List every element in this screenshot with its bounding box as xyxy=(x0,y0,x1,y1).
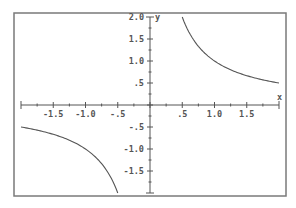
y-tick-label: -1.5 xyxy=(124,166,144,176)
y-tick-label: 1.5 xyxy=(129,34,144,44)
x-tick-label: -.5 xyxy=(110,109,125,119)
x-axis-label: x xyxy=(277,92,282,102)
function-plot: -1.5-1.0-.5.51.01.52.01.51.0.5-.5-1.0-1.… xyxy=(0,0,296,208)
x-tick-label: -1.5 xyxy=(43,109,63,119)
y-tick-label: 2.0 xyxy=(129,12,144,22)
x-tick-label: 1.0 xyxy=(207,109,222,119)
y-tick-label: -1.0 xyxy=(124,144,144,154)
y-axis-label: y xyxy=(155,12,160,22)
x-tick-label: -1.0 xyxy=(75,109,95,119)
y-tick-label: .5 xyxy=(134,78,144,88)
y-tick-label: -.5 xyxy=(129,122,144,132)
x-tick-label: .5 xyxy=(177,109,187,119)
y-tick-label: 1.0 xyxy=(129,56,144,66)
x-tick-label: 1.5 xyxy=(239,109,254,119)
